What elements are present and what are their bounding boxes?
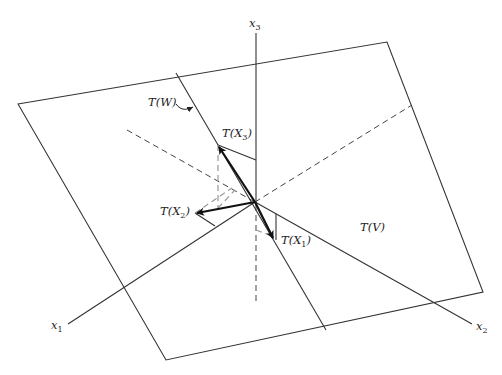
x1-axis-label: x1	[51, 320, 63, 334]
plane-w-label: T(W)	[148, 97, 177, 109]
tw-pointer-arrow	[176, 104, 193, 109]
x1-axis	[68, 202, 255, 324]
x3-axis-label: x3	[249, 18, 261, 32]
tx2-label: T(X2)	[160, 206, 190, 220]
diagram-canvas	[0, 0, 502, 375]
plane-v-label: T(V)	[360, 222, 385, 234]
x2-axis-label: x2	[476, 321, 488, 335]
tx1-label: T(X1)	[281, 235, 311, 249]
x2-axis-hidden	[255, 105, 412, 202]
tx2-edge	[195, 213, 215, 226]
plane-t-w	[176, 73, 326, 330]
linear-transformation-diagram: x3 x1 x2 T(V) T(W) T(X3) T(X2) T(X1)	[0, 0, 502, 375]
tx3-label: T(X3)	[222, 128, 252, 142]
